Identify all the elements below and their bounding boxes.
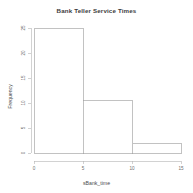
x-axis [34,161,181,164]
x-tick-labels: 051015 [33,166,184,171]
y-tick-label: 15 [21,75,26,81]
y-tick-label: 10 [21,100,26,106]
y-tick-label: 25 [21,25,26,31]
x-tick-label: 10 [129,166,135,171]
histogram-bar [83,101,132,154]
x-tick-label: 15 [178,166,184,171]
histogram-bar [132,143,181,153]
y-tick-label: 20 [21,50,26,56]
x-tick-label: 5 [82,166,85,171]
histogram-plot: 051015 0510152025 sBank_time Frequency [0,0,193,193]
y-axis-title: Frequency [7,84,13,109]
y-tick-labels: 0510152025 [21,25,26,154]
x-tick-label: 0 [33,166,36,171]
y-tick-label: 5 [21,126,26,129]
histogram-screenshot: Bank Teller Service Times 051015 0510152… [0,0,193,193]
y-axis [28,28,31,153]
y-tick-label: 0 [21,151,26,154]
histogram-bar [34,28,83,153]
x-axis-title: sBank_time [83,180,110,186]
bars-group [34,28,181,153]
